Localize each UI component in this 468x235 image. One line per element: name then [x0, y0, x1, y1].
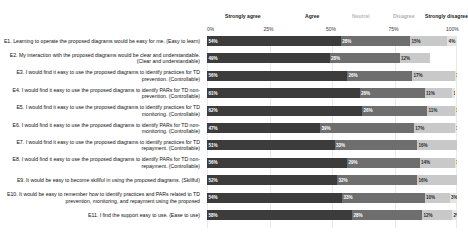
bar-segment-3: 10% [425, 193, 450, 203]
bar-value-label: 14% [420, 160, 431, 165]
bar-segment-1: 33% [342, 193, 425, 203]
category-label: E10. It would be easy to remember how to… [0, 191, 200, 204]
bar-value-label: 56% [207, 160, 218, 165]
bar-segment-1: 39% [320, 123, 414, 133]
bar-value-label: 51% [207, 143, 218, 148]
bar-segment-4: 3% [450, 193, 458, 203]
bar-value-label: 54% [207, 195, 218, 200]
bar-segment-3: 17% [414, 123, 455, 133]
bar-segment-0: 47% [207, 123, 320, 133]
bar-segment-3: 16% [417, 140, 457, 150]
bar-segment-4: 4% [447, 36, 457, 46]
bar-value-label: 56% [207, 73, 218, 78]
bar-row: 51%33%16% [207, 140, 457, 150]
category-label: E8. I would find it easy to use the prop… [0, 156, 200, 169]
bar-value-label: 28% [352, 213, 363, 218]
chart-legend: Strongly agreeAgreeNeutralDisagreeStrong… [207, 12, 461, 24]
bar-segment-3: 17% [412, 71, 455, 81]
bar-segment-1: 33% [335, 140, 418, 150]
bar-segment-0: 54% [207, 36, 341, 46]
legend-item-2: Neutral [352, 12, 370, 20]
bar-value-label: 17% [414, 126, 425, 131]
bar-segment-4: 1% [455, 158, 458, 168]
bar-segment-1: 28% [352, 210, 422, 220]
bar-value-label: 1% [455, 73, 458, 78]
bar-value-label: 54% [207, 39, 218, 44]
bar-value-label: 47% [207, 126, 218, 131]
bar-value-label: 28% [341, 39, 352, 44]
bar-value-label: 33% [335, 143, 346, 148]
category-label: E5. I would find it easy to use the prop… [0, 104, 200, 117]
bar-row: 58%28%12%2% [207, 210, 457, 220]
bar-row: 54%33%10%3% [207, 193, 457, 203]
bar-value-label: 11% [425, 91, 435, 96]
bar-value-label: 49% [207, 56, 218, 61]
bar-row: 56%29%14%1% [207, 158, 457, 168]
bar-row: 56%26%17%1% [207, 71, 457, 81]
bar-segment-0: 56% [207, 71, 347, 81]
bar-value-label: 61% [207, 91, 218, 96]
category-labels: E1. Learning to operate the proposed dia… [0, 36, 203, 228]
x-axis-tick-3: 75% [389, 26, 399, 32]
legend-item-0: Strongly agree [225, 12, 261, 20]
bar-segment-3: 16% [417, 175, 457, 185]
bar-segment-3: 14% [420, 158, 455, 168]
bar-value-label: 1% [455, 160, 458, 165]
bar-value-label: 11% [427, 108, 437, 113]
category-label: E7. I would find it easy to use the prop… [0, 139, 200, 152]
bar-value-label: 26% [360, 91, 371, 96]
x-axis-tick-1: 25% [264, 26, 274, 32]
bar-row: 61%26%11%1% [207, 88, 457, 98]
bar-value-label: 29% [347, 160, 358, 165]
bar-row: 52%32%16% [207, 175, 457, 185]
bar-value-label: 15% [410, 39, 421, 44]
bar-segment-4: 2% [452, 210, 457, 220]
bar-row: 54%28%15%4% [207, 36, 457, 46]
bar-value-label: 1% [455, 126, 457, 131]
bar-value-label: 12% [400, 56, 411, 61]
bar-value-label: 10% [425, 195, 436, 200]
bar-value-label: 2% [452, 213, 457, 218]
bar-segment-4: 1% [455, 123, 457, 133]
bar-segment-0: 51% [207, 140, 335, 150]
bar-segment-1: 32% [337, 175, 417, 185]
bar-segment-0: 52% [207, 175, 337, 185]
bar-value-label: 58% [207, 213, 218, 218]
bar-value-label: 3% [450, 195, 458, 200]
bar-value-label: 62% [207, 108, 218, 113]
bar-value-label: 16% [417, 178, 428, 183]
category-label: E1. Learning to operate the proposed dia… [0, 38, 200, 44]
bar-value-label: 1% [455, 108, 458, 113]
legend-item-1: Agree [305, 12, 319, 20]
x-axis-tick-4: 100% [446, 26, 459, 32]
bar-segment-1: 26% [362, 106, 427, 116]
bar-row: 62%26%11%1% [207, 106, 457, 116]
x-axis: 0%25%50%75%100% [207, 26, 461, 36]
category-label: E11. I find the support easy to use. (Ea… [0, 212, 200, 218]
x-axis-tick-0: 0% [207, 26, 214, 32]
bar-segment-0: 54% [207, 193, 342, 203]
category-label: E3. I would find it easy to use the prop… [0, 69, 200, 82]
bar-segment-1: 26% [347, 71, 412, 81]
bar-segment-1: 26% [360, 88, 425, 98]
legend-item-3: Disagree [393, 12, 415, 20]
bar-value-label: 39% [320, 126, 331, 131]
category-label: E4. I would find it easy to use the prop… [0, 87, 200, 100]
bar-value-label: 28% [330, 56, 341, 61]
bar-value-label: 52% [207, 178, 218, 183]
bar-segment-3: 12% [400, 53, 430, 63]
bar-value-label: 17% [412, 73, 423, 78]
bar-value-label: 26% [347, 73, 358, 78]
category-label: E6. I would find it easy to use the prop… [0, 122, 200, 135]
bar-segment-0: 61% [207, 88, 360, 98]
x-axis-tick-2: 50% [326, 26, 336, 32]
bar-segment-4: 1% [455, 71, 458, 81]
category-label: E2. My interaction with the proposed dia… [0, 52, 200, 65]
bar-segment-3: 11% [427, 106, 455, 116]
legend-item-4: Strongly disagree [425, 12, 468, 20]
bar-value-label: 16% [417, 143, 428, 148]
plot-area: 54%28%15%4%49%28%12%56%26%17%1%61%26%11%… [207, 36, 457, 228]
bar-segment-4: 1% [452, 88, 455, 98]
bar-value-label: 26% [362, 108, 373, 113]
